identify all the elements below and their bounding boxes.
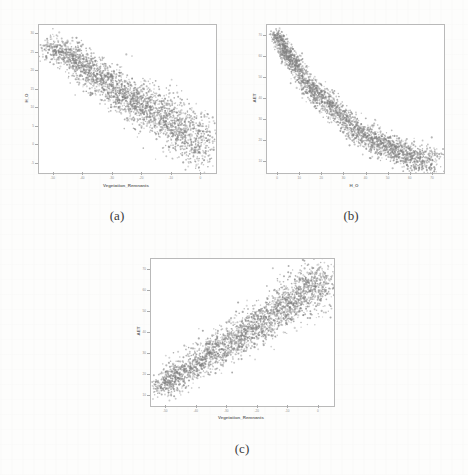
- y-axis-tick-label: 60: [139, 288, 146, 292]
- x-axis-tick-label: -10: [169, 176, 173, 180]
- y-axis-tick: [263, 98, 266, 99]
- panel-caption-c: (c): [235, 441, 249, 457]
- x-axis-tick-label: -40: [194, 409, 198, 413]
- y-axis-tick-label: 0: [27, 142, 34, 146]
- x-axis-tick-label: -10: [285, 409, 289, 413]
- y-axis-tick: [263, 35, 266, 36]
- x-axis-tick: [432, 172, 433, 175]
- plot-area-c: [150, 258, 335, 407]
- plot-area-b: [266, 24, 445, 174]
- x-axis-tick: [226, 405, 227, 408]
- x-axis-tick-label: -50: [51, 176, 55, 180]
- x-axis-tick-label: 0: [199, 176, 201, 180]
- x-axis-tick-label: 0: [317, 409, 319, 413]
- x-axis-tick: [141, 172, 142, 175]
- y-axis-tick-label: 30: [139, 351, 146, 355]
- y-axis-tick: [263, 140, 266, 141]
- y-axis-tick: [35, 144, 38, 145]
- y-axis-tick: [147, 311, 150, 312]
- y-axis-tick-label: 70: [255, 33, 262, 37]
- x-axis-tick: [299, 172, 300, 175]
- x-axis-tick: [165, 405, 166, 408]
- y-axis-tick: [147, 269, 150, 270]
- x-axis-tick: [171, 172, 172, 175]
- x-axis-tick: [53, 172, 54, 175]
- x-axis-tick-label: 10: [297, 176, 300, 180]
- x-axis-tick: [410, 172, 411, 175]
- y-axis-title-a: H_O: [24, 93, 29, 102]
- panel-b: H_O AET (b) 0102030405060701020304050607…: [234, 0, 468, 238]
- x-axis-tick-label: -40: [80, 176, 84, 180]
- y-axis-tick: [147, 395, 150, 396]
- panel-c: Vegetation_Remnants AET (c) -50-40-30-20…: [110, 238, 360, 475]
- y-axis-tick-label: 10: [139, 393, 146, 397]
- y-axis-tick-label: 5: [27, 124, 34, 128]
- x-axis-title-b: H_O: [349, 183, 358, 188]
- y-axis-tick: [147, 290, 150, 291]
- x-axis-tick: [257, 405, 258, 408]
- x-axis-tick-label: -30: [110, 176, 114, 180]
- x-axis-tick-label: -20: [255, 409, 259, 413]
- y-axis-tick-label: 70: [139, 267, 146, 271]
- plot-area-a: [38, 24, 217, 174]
- x-axis-tick-label: -50: [163, 409, 167, 413]
- x-axis-tick: [82, 172, 83, 175]
- y-axis-tick: [263, 56, 266, 57]
- y-axis-tick: [35, 89, 38, 90]
- y-axis-tick: [147, 332, 150, 333]
- panel-a: Vegetation_Remnants H_O (a) -50-40-30-20…: [0, 0, 234, 238]
- y-axis-tick-label: 20: [27, 68, 34, 72]
- y-axis-tick-label: -5: [27, 161, 34, 165]
- x-axis-tick-label: 20: [320, 176, 323, 180]
- y-axis-tick: [263, 161, 266, 162]
- y-axis-tick: [35, 107, 38, 108]
- y-axis-tick: [147, 374, 150, 375]
- y-axis-tick: [35, 33, 38, 34]
- y-axis-tick-label: 40: [139, 330, 146, 334]
- y-axis-tick-label: 60: [255, 54, 262, 58]
- x-axis-tick: [366, 172, 367, 175]
- y-axis-tick-label: 25: [27, 50, 34, 54]
- y-axis-tick-label: 50: [139, 309, 146, 313]
- x-axis-tick: [343, 172, 344, 175]
- y-axis-tick-label: 20: [139, 372, 146, 376]
- x-axis-tick-label: 0: [276, 176, 278, 180]
- x-axis-tick: [112, 172, 113, 175]
- x-axis-tick-label: -20: [139, 176, 143, 180]
- x-axis-tick: [321, 172, 322, 175]
- scatter-points-b: [267, 25, 444, 173]
- y-axis-tick-label: 40: [255, 96, 262, 100]
- y-axis-tick: [147, 353, 150, 354]
- x-axis-tick: [318, 405, 319, 408]
- y-axis-tick-label: 30: [255, 117, 262, 121]
- y-axis-tick-label: 50: [255, 75, 262, 79]
- y-axis-tick-label: 10: [27, 105, 34, 109]
- y-axis-tick: [263, 119, 266, 120]
- y-axis-tick-label: 10: [255, 159, 262, 163]
- x-axis-tick: [277, 172, 278, 175]
- panel-caption-a: (a): [110, 208, 124, 224]
- y-axis-tick-label: 15: [27, 87, 34, 91]
- scatter-points-c: [151, 259, 334, 406]
- x-axis-tick: [196, 405, 197, 408]
- x-axis-title-a: Vegetation_Remnants: [103, 183, 149, 188]
- x-axis-title-c: Vegetation_Remnants: [218, 415, 264, 420]
- y-axis-tick: [263, 77, 266, 78]
- x-axis-tick-label: 40: [364, 176, 367, 180]
- x-axis-tick-label: 60: [408, 176, 411, 180]
- y-axis-tick-label: 20: [255, 138, 262, 142]
- x-axis-tick: [388, 172, 389, 175]
- x-axis-tick-label: 50: [386, 176, 389, 180]
- x-axis-tick-label: 30: [342, 176, 345, 180]
- x-axis-tick-label: 70: [430, 176, 433, 180]
- y-axis-tick: [35, 52, 38, 53]
- y-axis-tick: [35, 126, 38, 127]
- y-axis-tick: [35, 70, 38, 71]
- y-axis-tick: [35, 163, 38, 164]
- panel-caption-b: (b): [343, 208, 358, 224]
- x-axis-tick: [287, 405, 288, 408]
- x-axis-tick-label: -30: [224, 409, 228, 413]
- x-axis-tick: [200, 172, 201, 175]
- y-axis-tick-label: 30: [27, 31, 34, 35]
- scatter-points-a: [39, 25, 216, 173]
